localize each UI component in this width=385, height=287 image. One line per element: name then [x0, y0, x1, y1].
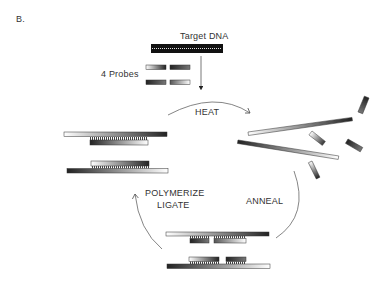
annealed-complex-top	[166, 232, 269, 243]
ligated-duplex-top	[64, 132, 167, 145]
panel-label: B.	[16, 14, 25, 24]
denatured-strands	[237, 96, 369, 179]
target-dna	[151, 44, 223, 53]
diagram-graphics	[0, 0, 385, 287]
target-dna-label: Target DNA	[180, 31, 229, 41]
heat-label: HEAT	[195, 107, 219, 117]
ligate-label: LIGATE	[157, 200, 190, 210]
lcr-cycle-diagram: B. Target DNA 4 Probes HEAT ANNEAL POLYM…	[0, 0, 385, 287]
ligated-duplex-bottom	[67, 161, 168, 173]
probes-label: 4 Probes	[101, 69, 139, 79]
anneal-label: ANNEAL	[246, 196, 283, 206]
annealed-complex-bottom	[167, 257, 270, 269]
polymerize-label: POLYMERIZE	[145, 188, 204, 198]
probe-set	[146, 65, 190, 85]
